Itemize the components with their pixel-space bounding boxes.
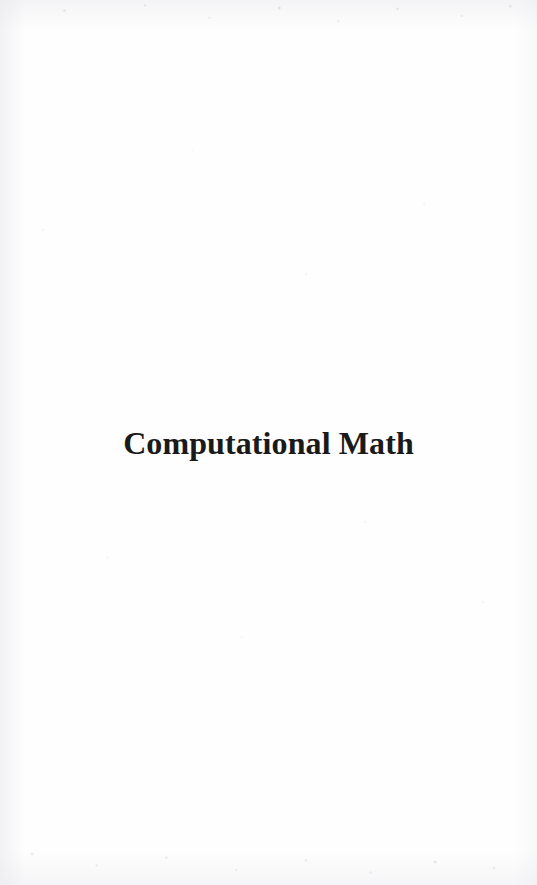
scanned-book-page: Computational Math [0,0,537,885]
part-title-block: Computational Math [0,424,537,462]
page-title: Computational Math [0,424,537,462]
